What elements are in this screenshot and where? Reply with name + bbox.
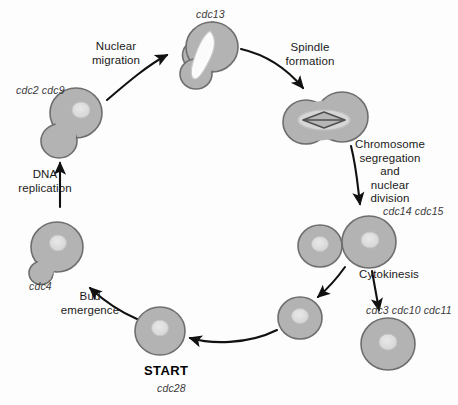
gene-label-cdc13: cdc13	[196, 8, 225, 20]
arrow-to-start	[190, 330, 277, 342]
cell-start	[135, 307, 185, 355]
nucleus	[72, 102, 90, 118]
gene-label-cdc14-cdc15: cdc14 cdc15	[383, 205, 444, 217]
label-start: START	[144, 363, 188, 378]
nucleus	[379, 334, 397, 350]
gene-label-cdc3-cdc10-cdc11: cdc3 cdc10 cdc11	[366, 304, 452, 316]
label-dna-replication: DNA replication	[10, 168, 80, 195]
gene-label-cdc2-cdc9: cdc2 cdc9	[16, 84, 65, 96]
label-spindle-formation: Spindle formation	[272, 41, 348, 68]
nucleus-large	[361, 232, 379, 248]
cell-cycle-diagram: Nuclear migration Spindle formation Chro…	[0, 0, 458, 405]
nucleus	[292, 309, 309, 324]
cell-daughter-large	[361, 318, 415, 370]
cell-nuclear-migration	[180, 22, 238, 89]
nucleus	[50, 235, 67, 251]
cell-dna-replication	[41, 88, 102, 158]
label-chromosome-segregation: Chromosome segregation and nuclear divis…	[352, 138, 428, 206]
cell-spindle	[283, 92, 368, 144]
label-bud-emergence: Bud emergence	[52, 290, 128, 317]
label-nuclear-migration: Nuclear migration	[78, 40, 154, 67]
gene-label-cdc28: cdc28	[157, 382, 186, 394]
nucleus-small	[312, 237, 329, 252]
arrow-cytokinesis-small	[318, 267, 345, 297]
label-cytokinesis: Cytokinesis	[359, 268, 431, 282]
gene-label-cdc4: cdc4	[29, 280, 52, 292]
cell-daughter-small	[278, 297, 322, 339]
cell-segregated-pair	[298, 216, 396, 268]
nucleus	[152, 320, 169, 336]
cell-bud-emergence	[29, 222, 83, 285]
